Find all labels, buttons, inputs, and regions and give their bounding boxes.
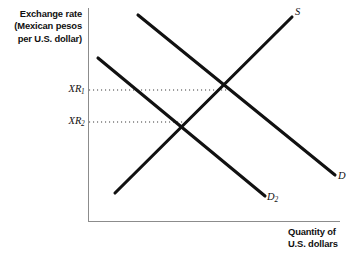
y-tick-label-xr1-base: XR	[68, 83, 81, 94]
chart-axes	[89, 8, 341, 222]
supply-curve-s	[115, 17, 292, 193]
x-axis-title: Quantity of U.S. dollars	[288, 226, 338, 250]
y-tick-label-xr1: XR1	[68, 83, 85, 94]
y-tick-label-xr2-base: XR	[68, 115, 81, 126]
demand-curve-label: D	[338, 170, 346, 181]
supply-curve-label: S	[295, 6, 300, 17]
y-tick-label-xr2-subscript: 2	[81, 119, 85, 128]
demand-curve-d2-label: D2	[267, 191, 278, 202]
y-axis-title-line2: (Mexican pesos	[14, 20, 82, 31]
x-axis-title-line1: Quantity of	[288, 226, 336, 237]
y-axis-title: Exchange rate (Mexican pesos per U.S. do…	[0, 8, 82, 45]
exchange-rate-supply-demand-figure: Exchange rate (Mexican pesos per U.S. do…	[0, 0, 355, 253]
y-axis-title-line1: Exchange rate	[20, 8, 82, 19]
y-tick-label-xr1-subscript: 1	[81, 87, 85, 96]
y-tick-label-xr2: XR2	[68, 115, 85, 126]
demand-curve-d2	[98, 58, 265, 196]
demand-curve-d2-label-subscript: 2	[274, 195, 278, 204]
y-axis-title-line3: per U.S. dollar)	[18, 33, 82, 44]
demand-curve-d	[138, 15, 335, 175]
x-axis-title-line2: U.S. dollars	[288, 238, 338, 249]
